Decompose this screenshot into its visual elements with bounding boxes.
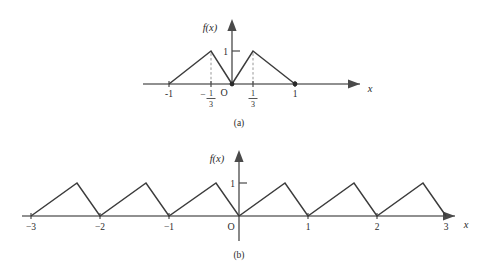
panel-b-x-axis-label: x	[463, 219, 469, 230]
panel-a-x-axis-label: x	[367, 83, 373, 94]
panel-b-x-tick-label-neg1: −1	[164, 222, 174, 232]
panel-a-point-x1	[293, 82, 298, 87]
panel-a-fraction-neg-third-sign: −	[200, 90, 205, 100]
panel-a-y-tick-label-1: 1	[223, 47, 228, 57]
panel-a-fraction-pos-third: 1 3	[249, 89, 258, 109]
panel-a-fraction-neg-third-denominator: 3	[209, 100, 213, 109]
panel-b-x-tick-label-3: 3	[444, 222, 449, 232]
panel-b-y-axis-label: f(x)	[210, 153, 225, 165]
panel-a-fraction-neg-third: − 1 3	[200, 89, 215, 109]
panel-a-fraction-pos-third-denominator: 3	[251, 100, 255, 109]
panel-b-x-tick-label-1: 1	[306, 222, 311, 232]
panel-a-caption: (a)	[234, 118, 245, 129]
panel-b-y-tick-label-1: 1	[230, 179, 235, 189]
panel-b-caption: (b)	[233, 250, 244, 261]
panel-b-x-axis-arrowhead	[443, 211, 455, 220]
panel-a-fraction-neg-third-numerator: 1	[209, 89, 213, 98]
panel-b-x-tick-label-neg2: −2	[95, 222, 105, 232]
panel-a-chart: f(x) x O 1 -1 1 − 1 3 1 3 (a)	[0, 0, 485, 138]
panel-a-y-axis-label: f(x)	[203, 22, 218, 34]
panel-b-y-axis-arrowhead	[234, 150, 243, 162]
panel-a-x-tick-label-neg1: -1	[165, 89, 173, 99]
panel-a-origin-label: O	[220, 87, 227, 98]
panel-b-chart: f(x) x O 1 −3 −2 −1 1 2 3 (b)	[0, 138, 485, 275]
panel-b-x-tick-label-2: 2	[375, 222, 380, 232]
panel-a-x-axis-arrowhead	[348, 79, 360, 88]
panel-a-fraction-pos-third-numerator: 1	[251, 89, 255, 98]
panel-b-x-tick-label-neg3: −3	[26, 222, 36, 232]
panel-a-point-origin	[230, 82, 235, 87]
panel-a-y-axis-arrowhead	[227, 19, 236, 31]
figure-container: f(x) x O 1 -1 1 − 1 3 1 3 (a)	[0, 0, 485, 275]
panel-a-x-tick-label-1: 1	[293, 89, 298, 99]
panel-b-origin-label: O	[227, 221, 234, 232]
